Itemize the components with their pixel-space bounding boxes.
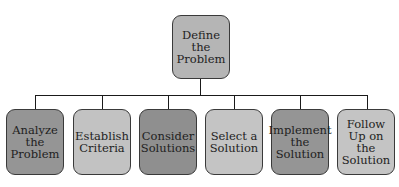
root-node-define-problem: Define the Problem xyxy=(172,15,230,79)
node-implement-solution: Implement the Solution xyxy=(271,109,329,175)
child-connector-4 xyxy=(234,95,235,110)
node-follow-up: Follow Up on the Solution xyxy=(337,109,395,175)
node-select-solution: Select a Solution xyxy=(205,109,263,175)
child-connector-2 xyxy=(102,95,103,110)
child-connector-6 xyxy=(367,95,368,110)
child-connector-5 xyxy=(300,95,301,110)
node-consider-solutions: Consider Solutions xyxy=(139,109,197,175)
root-node-label: Define the Problem xyxy=(173,29,229,65)
child-connector-3 xyxy=(168,95,169,110)
node-establish-criteria: Establish Criteria xyxy=(73,109,131,175)
node-label: Analyze the Problem xyxy=(7,124,63,160)
node-label: Implement the Solution xyxy=(268,124,331,160)
node-label: Select a Solution xyxy=(206,130,262,154)
root-connector xyxy=(200,78,201,95)
node-label: Consider Solutions xyxy=(140,130,196,154)
horizontal-connector xyxy=(35,95,368,96)
child-connector-1 xyxy=(35,95,36,110)
node-label: Establish Criteria xyxy=(74,130,130,154)
node-label: Follow Up on the Solution xyxy=(338,118,394,166)
node-analyze-problem: Analyze the Problem xyxy=(6,109,64,175)
